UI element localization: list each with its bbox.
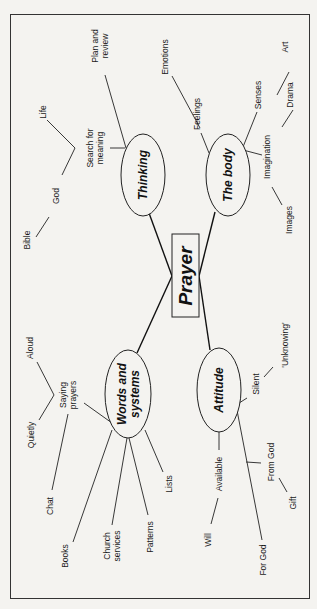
- label-bible: Bible: [22, 230, 32, 249]
- label-search-for-meaning-1: Search for: [85, 128, 95, 167]
- label-chat: Chat: [45, 496, 55, 515]
- label-feelings: Feelings: [192, 98, 202, 130]
- label-patterns: Patterns: [145, 521, 155, 553]
- label-imagination: Imagination: [262, 135, 272, 179]
- label-from-god: From God: [266, 443, 276, 482]
- label-silent: Silent: [251, 373, 261, 395]
- label-aloud: Aloud: [25, 337, 35, 359]
- label-lists: Lists: [164, 475, 174, 492]
- attitude-label: Attitude: [212, 367, 226, 414]
- label-search-for-meaning-2: meaning: [95, 131, 105, 164]
- label-drama: Drama: [285, 82, 295, 108]
- label-plan-and-review-2: review: [100, 33, 110, 58]
- label-quietly: Quietly: [26, 421, 36, 448]
- words-and-systems-label-line1: Words and: [115, 362, 129, 424]
- prayer-mind-map: Prayer Thinking The body Words and syste…: [0, 0, 317, 609]
- label-will: Will: [203, 533, 213, 547]
- label-books: Books: [60, 544, 70, 568]
- label-saying-prayers-1: Saying: [58, 382, 68, 408]
- label-images: Images: [284, 206, 294, 234]
- label-unknowing: 'Unknowing': [280, 322, 290, 368]
- diagram-frame: [11, 15, 310, 599]
- label-church-services-1: Church: [102, 532, 112, 560]
- thinking-label: Thinking: [136, 149, 150, 200]
- label-gift: Gift: [288, 496, 298, 510]
- words-and-systems-label-line2: systems: [128, 370, 142, 418]
- the-body-label: The body: [221, 147, 235, 202]
- label-available: Available: [214, 457, 224, 492]
- label-for-god: For God: [258, 544, 268, 575]
- label-senses: Senses: [253, 81, 263, 109]
- label-plan-and-review-1: Plan and: [90, 29, 100, 63]
- label-god: God: [51, 188, 61, 204]
- root-label: Prayer: [175, 245, 196, 306]
- thinking-connectors: [36, 75, 126, 237]
- label-art: Art: [280, 41, 290, 53]
- label-life: Life: [38, 105, 48, 119]
- label-saying-prayers-2: prayers: [68, 381, 78, 409]
- label-church-services-2: services: [112, 530, 122, 561]
- label-emotions: Emotions: [160, 39, 170, 74]
